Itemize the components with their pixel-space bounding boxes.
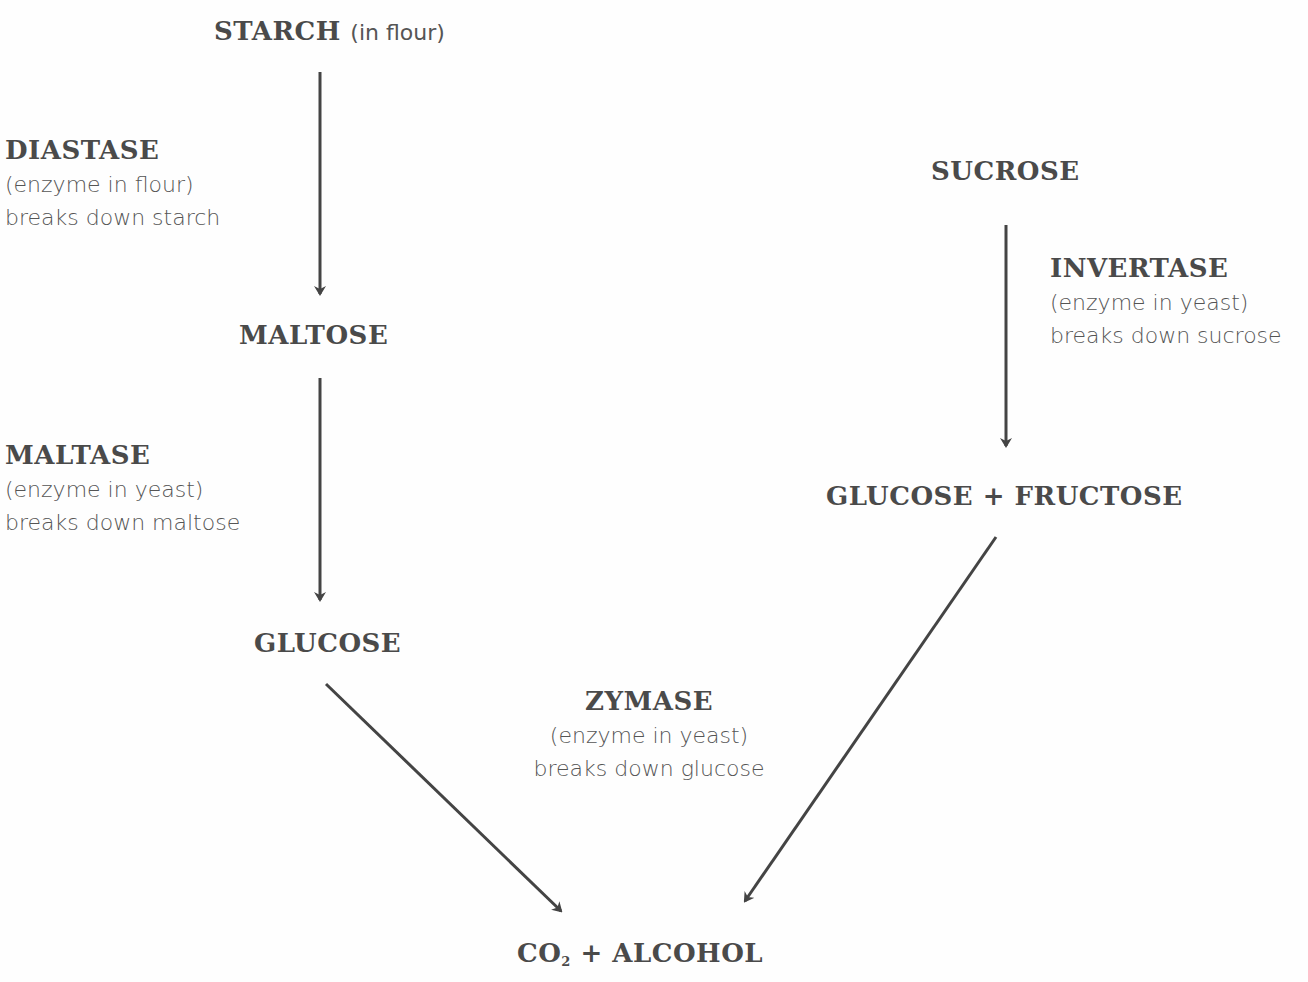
node-sucrose-label: SUCROSE xyxy=(931,156,1080,186)
enzyme-maltase: MALTASE (enzyme in yeast) breaks down ma… xyxy=(5,437,240,539)
node-glucose-label: GLUCOSE xyxy=(254,628,401,658)
node-glucose-fructose: GLUCOSE + FRUCTOSE xyxy=(826,481,1183,511)
node-starch-label: STARCH xyxy=(214,16,341,46)
enzyme-diastase-line2: breaks down starch xyxy=(5,201,220,234)
enzyme-invertase-name: INVERTASE xyxy=(1050,250,1282,286)
enzyme-diastase-line1: (enzyme in flour) xyxy=(5,168,220,201)
enzyme-zymase-name: ZYMASE xyxy=(520,683,778,719)
node-sucrose: SUCROSE xyxy=(931,156,1080,186)
node-starch-note: (in flour) xyxy=(350,20,445,45)
node-glucose: GLUCOSE xyxy=(254,628,401,658)
node-starch: STARCH (in flour) xyxy=(214,16,445,46)
enzyme-zymase-line2: breaks down glucose xyxy=(520,752,778,785)
node-maltose-label: MALTOSE xyxy=(239,320,388,350)
enzyme-zymase-line1: (enzyme in yeast) xyxy=(520,719,778,752)
enzyme-invertase: INVERTASE (enzyme in yeast) breaks down … xyxy=(1050,250,1282,352)
node-products-prefix: CO xyxy=(517,938,561,968)
enzyme-invertase-line2: breaks down sucrose xyxy=(1050,319,1282,352)
node-products-subscript: 2 xyxy=(561,954,571,969)
enzyme-zymase: ZYMASE (enzyme in yeast) breaks down glu… xyxy=(520,683,778,785)
enzyme-diastase: DIASTASE (enzyme in flour) breaks down s… xyxy=(5,132,220,234)
node-products: CO2 + ALCOHOL xyxy=(517,938,763,969)
arrow-glucose-fructose-to-products xyxy=(745,537,996,901)
node-maltose: MALTOSE xyxy=(239,320,388,350)
enzyme-maltase-line1: (enzyme in yeast) xyxy=(5,473,240,506)
node-products-suffix: + ALCOHOL xyxy=(571,938,763,968)
node-glucose-fructose-label: GLUCOSE + FRUCTOSE xyxy=(826,481,1183,511)
enzyme-maltase-line2: breaks down maltose xyxy=(5,506,240,539)
enzyme-maltase-name: MALTASE xyxy=(5,437,240,473)
enzyme-invertase-line1: (enzyme in yeast) xyxy=(1050,286,1282,319)
enzyme-diastase-name: DIASTASE xyxy=(5,132,220,168)
